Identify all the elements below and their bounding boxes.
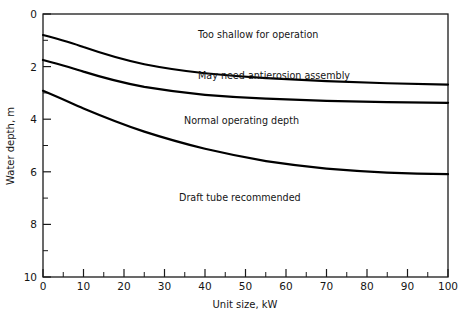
x-tick-label-0: 0 [40,280,47,292]
region-label-too-shallow: Too shallow for operation [197,29,318,40]
chart-container: 0 2 4 6 8 10 Water depth, m [0,0,468,322]
y-tick-label-2: 2 [30,61,37,73]
x-tick-label-10: 10 [77,280,90,292]
x-tick-label-40: 40 [198,280,211,292]
y-tick-label-8: 8 [30,218,37,230]
x-tick-label-90: 90 [401,280,414,292]
y-axis-title: Water depth, m [5,107,16,185]
x-tick-label-80: 80 [360,280,373,292]
x-axis-title: Unit size, kW [213,299,278,310]
y-tick-label-0: 0 [30,8,37,20]
y-axis-tick-labels: 0 2 4 6 8 10 [24,8,38,283]
region-label-antierosion: May need antierosion assembly [198,70,350,81]
y-tick-label-6: 6 [30,166,37,178]
chart-svg: 0 2 4 6 8 10 Water depth, m [0,0,468,322]
y-tick-label-4: 4 [30,113,37,125]
x-tick-label-50: 50 [239,280,252,292]
region-label-draft-tube: Draft tube recommended [179,192,301,203]
x-tick-label-20: 20 [117,280,130,292]
x-tick-label-30: 30 [158,280,171,292]
x-axis-tick-labels: 0 10 20 30 40 50 60 70 80 90 100 [40,280,458,292]
x-tick-label-100: 100 [438,280,458,292]
y-tick-label-10: 10 [24,271,37,283]
x-tick-label-70: 70 [320,280,333,292]
x-tick-label-60: 60 [279,280,292,292]
region-label-normal-operating: Normal operating depth [184,115,299,126]
